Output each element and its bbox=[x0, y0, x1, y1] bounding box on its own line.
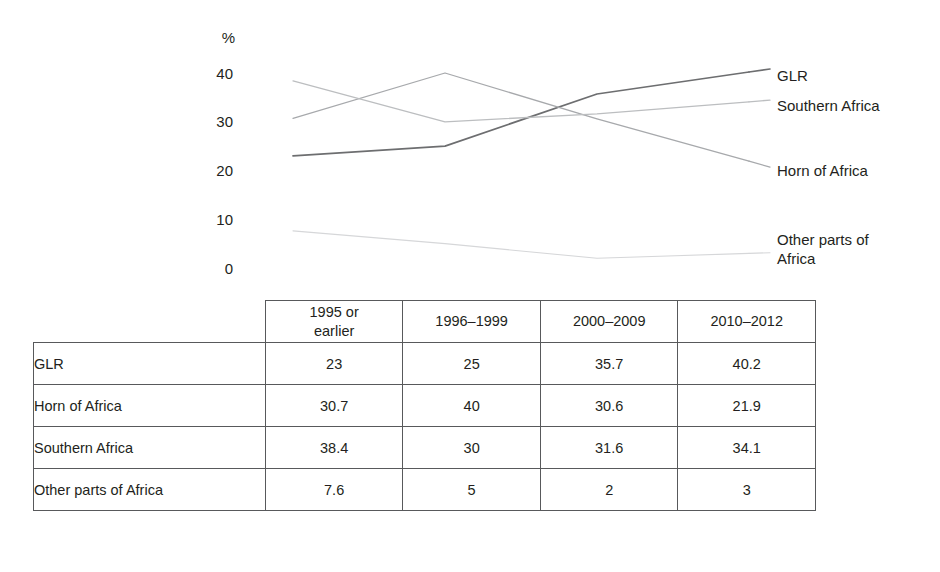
table-header-row: 1995 or earlier 1996–1999 2000–2009 2010… bbox=[34, 301, 816, 343]
table-cell: 23 bbox=[265, 343, 403, 385]
series-leader-southern-africa bbox=[749, 100, 770, 102]
series-line-horn-of-africa bbox=[293, 73, 749, 161]
table-corner-cell bbox=[34, 301, 266, 343]
table-cell: 21.9 bbox=[678, 385, 816, 427]
table-cell: 35.7 bbox=[540, 343, 678, 385]
series-label-horn-of-africa: Horn of Africa bbox=[777, 161, 868, 180]
series-label-glr: GLR bbox=[777, 66, 808, 85]
table-cell: 40.2 bbox=[678, 343, 816, 385]
table-cell: 25 bbox=[403, 343, 541, 385]
series-leader-glr bbox=[749, 69, 770, 72]
table-cell: 30 bbox=[403, 427, 541, 469]
table-row-label: Horn of Africa bbox=[34, 385, 266, 427]
series-line-glr bbox=[293, 72, 749, 156]
table-header-cell: 1995 or earlier bbox=[265, 301, 403, 343]
table-cell: 5 bbox=[403, 469, 541, 511]
table-header-cell: 1996–1999 bbox=[403, 301, 541, 343]
series-line-other-parts-of-africa bbox=[293, 231, 749, 258]
table-header-cell: 2000–2009 bbox=[540, 301, 678, 343]
series-leader-horn-of-africa bbox=[749, 161, 770, 167]
table-row-label: Southern Africa bbox=[34, 427, 266, 469]
table-row: Southern Africa38.43031.634.1 bbox=[34, 427, 816, 469]
table-cell: 7.6 bbox=[265, 469, 403, 511]
table-cell: 3 bbox=[678, 469, 816, 511]
table-row: GLR232535.740.2 bbox=[34, 343, 816, 385]
table-cell: 30.6 bbox=[540, 385, 678, 427]
data-table: 1995 or earlier 1996–1999 2000–2009 2010… bbox=[33, 300, 816, 511]
table-cell: 30.7 bbox=[265, 385, 403, 427]
table-row: Horn of Africa30.74030.621.9 bbox=[34, 385, 816, 427]
table-row-label: GLR bbox=[34, 343, 266, 385]
data-table-container: 1995 or earlier 1996–1999 2000–2009 2010… bbox=[33, 300, 816, 511]
table-row-label: Other parts of Africa bbox=[34, 469, 266, 511]
table-header-cell: 2010–2012 bbox=[678, 301, 816, 343]
line-chart-figure: % 40 30 20 10 0 GLR Southern Africa Horn… bbox=[0, 0, 940, 290]
series-line-southern-africa bbox=[293, 81, 749, 122]
table-row: Other parts of Africa7.6523 bbox=[34, 469, 816, 511]
table-cell: 38.4 bbox=[265, 427, 403, 469]
series-leader-other-parts-of-africa bbox=[749, 253, 770, 254]
series-label-other-parts-of-africa: Other parts of Africa bbox=[777, 230, 869, 268]
table-cell: 40 bbox=[403, 385, 541, 427]
series-label-southern-africa: Southern Africa bbox=[777, 96, 880, 115]
table-cell: 2 bbox=[540, 469, 678, 511]
table-cell: 31.6 bbox=[540, 427, 678, 469]
table-cell: 34.1 bbox=[678, 427, 816, 469]
